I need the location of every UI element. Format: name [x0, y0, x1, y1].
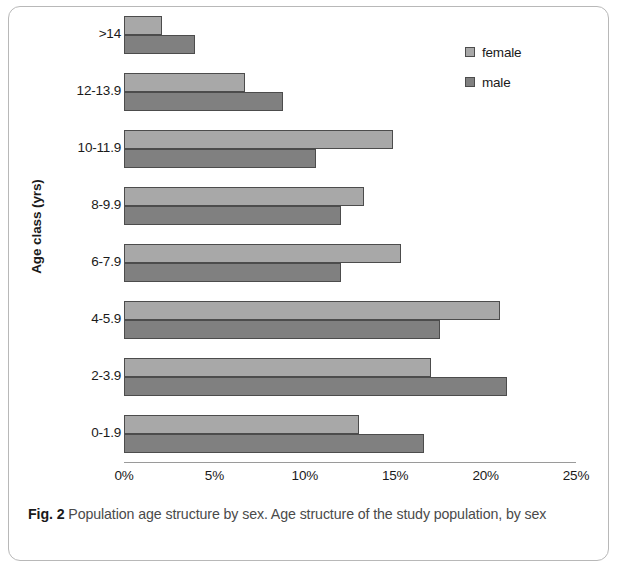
- legend-item-female: female: [465, 41, 585, 63]
- bar-female: [124, 301, 500, 320]
- bar-female: [124, 130, 393, 149]
- x-axis-tick-label: 15%: [365, 468, 425, 483]
- x-axis-tick-label: 5%: [184, 468, 244, 483]
- y-axis-tick-label: 10-11.9: [21, 140, 121, 155]
- bar-female: [124, 415, 359, 434]
- legend-label: male: [482, 75, 510, 90]
- chart-plot-area: Age class (yrs) >1412-13.910-11.98-9.96-…: [9, 7, 610, 494]
- x-axis-tick-label: 20%: [456, 468, 516, 483]
- bar-female: [124, 73, 245, 92]
- y-axis-tick-label: 4-5.9: [21, 311, 121, 326]
- bar-male: [124, 149, 316, 168]
- bar-male: [124, 35, 195, 54]
- chart-legend: femalemale: [465, 41, 585, 101]
- bar-female: [124, 187, 364, 206]
- figure-card: Age class (yrs) >1412-13.910-11.98-9.96-…: [8, 6, 609, 561]
- x-axis-tick-label: 25%: [546, 468, 606, 483]
- figure-caption-text: Population age structure by sex. Age str…: [68, 506, 546, 522]
- bar-male: [124, 434, 424, 453]
- x-axis-tick-label: 0%: [94, 468, 154, 483]
- y-axis-tick-label: 8-9.9: [21, 197, 121, 212]
- x-axis-line: [124, 462, 576, 463]
- figure-caption-label: Fig. 2: [28, 506, 64, 522]
- y-axis-tick-label: 0-1.9: [21, 425, 121, 440]
- bar-female: [124, 358, 431, 377]
- legend-item-male: male: [465, 71, 585, 93]
- bar-male: [124, 263, 341, 282]
- y-axis-tick-label: 2-3.9: [21, 368, 121, 383]
- bar-female: [124, 244, 401, 263]
- bar-male: [124, 320, 440, 339]
- legend-swatch-icon: [465, 77, 475, 87]
- bar-male: [124, 377, 507, 396]
- y-axis-tick-label: >14: [21, 26, 121, 41]
- y-axis-tick-label: 6-7.9: [21, 254, 121, 269]
- legend-swatch-icon: [465, 47, 475, 57]
- x-axis-tick-labels: 0%5%10%15%20%25%: [9, 468, 610, 492]
- figure-caption: Fig. 2 Population age structure by sex. …: [28, 502, 593, 527]
- legend-label: female: [482, 45, 521, 60]
- bar-male: [124, 92, 283, 111]
- bar-female: [124, 16, 162, 35]
- x-axis-tick-label: 10%: [275, 468, 335, 483]
- y-axis-tick-labels: >1412-13.910-11.98-9.96-7.94-5.92-3.90-1…: [14, 7, 121, 462]
- y-axis-tick-label: 12-13.9: [21, 83, 121, 98]
- bar-male: [124, 206, 341, 225]
